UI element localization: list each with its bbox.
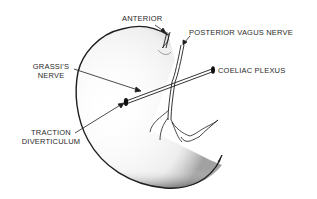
grassis-nerve-label-line2: NERVE — [28, 71, 74, 80]
traction-diverticulum-label: TRACTION DIVERTICULUM — [18, 128, 84, 146]
stomach-body — [76, 26, 223, 188]
traction-diverticulum-marker — [124, 98, 128, 106]
coeliac-plexus-marker — [211, 66, 215, 74]
grassis-nerve-label: GRASSI'S NERVE — [28, 62, 74, 80]
anterior-label: ANTERIOR — [122, 14, 162, 23]
coeliac-plexus-label: COELIAC PLEXUS — [218, 66, 285, 75]
grassis-nerve-label-line1: GRASSI'S — [28, 62, 74, 71]
posterior-vagus-nerve-label: POSTERIOR VAGUS NERVE — [189, 28, 293, 37]
traction-diverticulum-label-line1: TRACTION — [18, 128, 84, 137]
traction-diverticulum-label-line2: DIVERTICULUM — [18, 137, 84, 146]
